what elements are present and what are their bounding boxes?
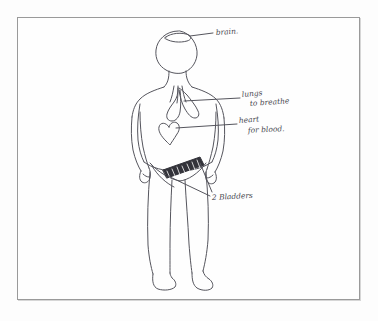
- lungs-organ-shape: [167, 88, 199, 121]
- right-arm-outline: [206, 112, 225, 184]
- screenshot-root: brain. lungs to breathe heart for blood.…: [0, 0, 378, 321]
- body-diagram-drawing: brain. lungs to breathe heart for blood.…: [0, 0, 378, 321]
- legs-outline: [148, 172, 209, 274]
- label-bladders: 2 Bladders: [211, 191, 254, 202]
- leader-line-heart: [176, 124, 237, 128]
- leader-line-brain: [190, 33, 213, 36]
- label-lungs-note: to breathe: [250, 96, 291, 108]
- label-heart-note: for blood.: [247, 124, 285, 135]
- label-heart: heart: [239, 115, 261, 125]
- heart-organ-shape: [159, 122, 179, 145]
- label-brain: brain.: [216, 26, 239, 37]
- brain-organ-shape: [165, 33, 191, 42]
- leader-line-lungs: [184, 98, 240, 101]
- bladders-organ-shape: [163, 157, 204, 178]
- left-arm-outline: [131, 112, 150, 183]
- feet-outline: [153, 271, 213, 290]
